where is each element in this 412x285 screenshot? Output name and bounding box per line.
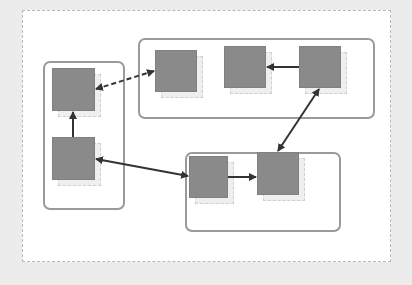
edge-b-f[interactable] <box>96 159 188 176</box>
edge-g-e[interactable] <box>278 89 319 151</box>
edge-a-c-dashed[interactable] <box>96 71 154 89</box>
edges-layer <box>0 0 412 285</box>
